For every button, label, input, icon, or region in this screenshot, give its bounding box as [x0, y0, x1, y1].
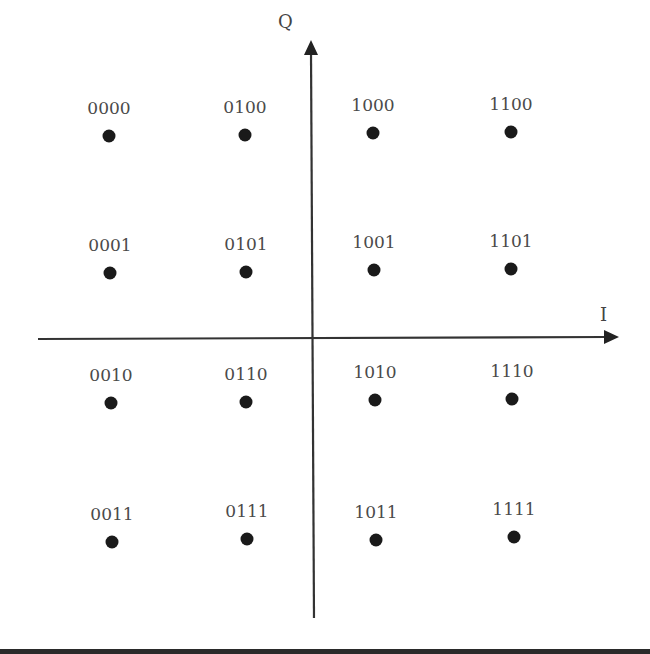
- point-label: 0110: [224, 366, 267, 383]
- point-label: 1010: [353, 364, 396, 381]
- point-label: 0011: [90, 506, 133, 523]
- point-label: 1100: [489, 96, 532, 113]
- constellation-point: [370, 534, 383, 547]
- point-label: 0111: [225, 503, 268, 520]
- point-label: 1001: [352, 234, 395, 251]
- constellation-point: [103, 130, 116, 143]
- i-axis: [38, 337, 606, 339]
- constellation-point: [241, 533, 254, 546]
- constellation-point: [106, 536, 119, 549]
- point-label: 0100: [223, 99, 266, 116]
- constellation-point: [240, 396, 253, 409]
- constellation-point: [506, 393, 519, 406]
- i-axis-label: I: [600, 306, 607, 324]
- point-label: 0001: [88, 237, 131, 254]
- i-axis-arrow-icon: [604, 330, 619, 344]
- constellation-point: [369, 394, 382, 407]
- point-label: 1111: [492, 501, 535, 518]
- point-label: 0010: [89, 367, 132, 384]
- point-label: 1011: [354, 504, 397, 521]
- constellation-point: [505, 263, 518, 276]
- constellation-point: [367, 127, 380, 140]
- constellation-point: [240, 266, 253, 279]
- point-label: 1000: [351, 97, 394, 114]
- constellation-point: [508, 531, 521, 544]
- point-label: 1101: [489, 233, 532, 250]
- constellation-point: [505, 126, 518, 139]
- bottom-border: [0, 649, 650, 654]
- q-axis: [311, 52, 314, 618]
- constellation-point: [105, 397, 118, 410]
- q-axis-arrow-icon: [304, 40, 318, 55]
- constellation-point: [104, 267, 117, 280]
- constellation-diagram: Q I 000001001000110000010101100111010010…: [0, 0, 650, 654]
- point-label: 1110: [490, 363, 533, 380]
- q-axis-label: Q: [278, 13, 293, 31]
- constellation-point: [239, 129, 252, 142]
- constellation-point: [368, 264, 381, 277]
- point-label: 0000: [87, 100, 130, 117]
- point-label: 0101: [224, 236, 267, 253]
